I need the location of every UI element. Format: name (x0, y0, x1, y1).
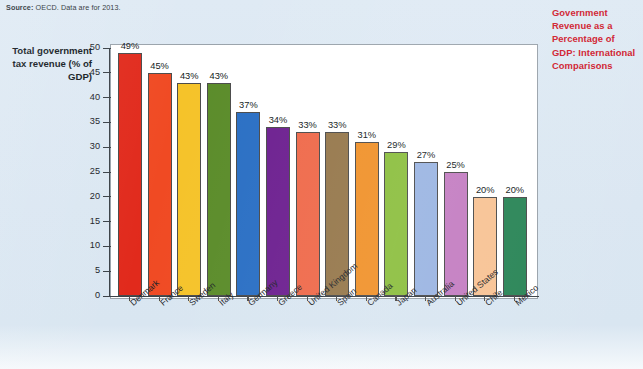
bar[interactable] (148, 73, 172, 296)
bar-value-label: 20% (496, 185, 534, 195)
bar[interactable] (355, 142, 379, 296)
y-tick-label: 15 (74, 216, 100, 226)
bar-group[interactable]: 31% (353, 44, 381, 296)
bar[interactable] (207, 83, 231, 296)
bar-group[interactable]: 27% (412, 44, 440, 296)
bar-group[interactable]: 33% (323, 44, 351, 296)
bar[interactable] (118, 53, 142, 296)
y-tick-label: 50 (74, 42, 100, 52)
bar-value-label: 49% (111, 41, 149, 51)
bar-group[interactable]: 43% (205, 44, 233, 296)
source-text: OECD. Data are for 2013. (33, 3, 120, 12)
bar-group[interactable]: 34% (264, 44, 292, 296)
source-note: Source: OECD. Data are for 2013. (6, 3, 121, 12)
bar-group[interactable]: 49% (116, 44, 144, 296)
bar-group[interactable]: 20% (471, 44, 499, 296)
y-tick-label: 20 (74, 191, 100, 201)
bar-value-label: 37% (229, 100, 267, 110)
bar-value-label: 27% (407, 150, 445, 160)
y-tick-label: 10 (74, 240, 100, 250)
bar-group[interactable]: 25% (442, 44, 470, 296)
bar[interactable] (177, 83, 201, 296)
bar-value-label: 33% (318, 120, 356, 130)
bars-layer: 49%45%43%43%37%34%33%33%31%29%27%25%20%2… (110, 44, 538, 296)
bar-group[interactable]: 43% (175, 44, 203, 296)
bar-value-label: 45% (141, 61, 179, 71)
bar[interactable] (503, 197, 527, 296)
bar[interactable] (236, 112, 260, 296)
y-tick-label: 30 (74, 141, 100, 151)
bar-group[interactable]: 20% (501, 44, 529, 296)
bar[interactable] (414, 162, 438, 296)
bar[interactable] (444, 172, 468, 296)
bar-group[interactable]: 45% (146, 44, 174, 296)
chart-title: Government Revenue as a Percentage of GD… (552, 6, 640, 72)
y-tick-label: 45 (74, 67, 100, 77)
bar[interactable] (266, 127, 290, 296)
bar-group[interactable]: 29% (382, 44, 410, 296)
bar-group[interactable]: 33% (294, 44, 322, 296)
y-tick-label: 35 (74, 116, 100, 126)
source-label: Source: (6, 3, 33, 12)
y-tick-label: 5 (74, 265, 100, 275)
y-tick-label: 40 (74, 92, 100, 102)
bar[interactable] (296, 132, 320, 296)
bar-value-label: 29% (377, 140, 415, 150)
y-tick-label: 25 (74, 166, 100, 176)
bar-value-label: 31% (348, 130, 386, 140)
chart-page: Source: OECD. Data are for 2013. Governm… (0, 0, 643, 369)
bar-value-label: 25% (437, 160, 475, 170)
y-tick-label: 0 (74, 290, 100, 300)
bar-value-label: 43% (200, 71, 238, 81)
bar-group[interactable]: 37% (234, 44, 262, 296)
category-labels: DenmarkFranceSwedenItalyGermanyGreeceUni… (110, 300, 560, 366)
bar[interactable] (384, 152, 408, 296)
